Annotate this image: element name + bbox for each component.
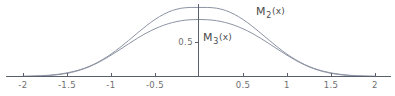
M2-curve-label: M2(x) xyxy=(256,5,285,20)
gaussian-curves-figure: -2-1.5-1-0.50.511.52 0.5 M2(x) M3(x) xyxy=(0,0,395,96)
x-tick-label: -2 xyxy=(18,80,27,90)
x-tick-label: 2 xyxy=(372,80,378,90)
x-tick-label: -1 xyxy=(106,80,115,90)
x-tick-label: 1.5 xyxy=(324,80,339,90)
x-tick-label: -1.5 xyxy=(58,80,76,90)
x-tick-label: 0.5 xyxy=(236,80,251,90)
M3-label-base: M xyxy=(203,31,213,44)
M3-curve-label: M3(x) xyxy=(203,31,232,46)
axes-group xyxy=(6,4,391,77)
x-axis-ticks xyxy=(24,73,376,77)
M2-label-argument: (x) xyxy=(272,6,285,16)
M3-label-argument: (x) xyxy=(219,32,232,42)
x-tick-label: -0.5 xyxy=(146,80,164,90)
y-tick-label: 0.5 xyxy=(178,37,193,47)
M2-label-base: M xyxy=(256,5,266,18)
x-tick-label: 1 xyxy=(284,80,290,90)
